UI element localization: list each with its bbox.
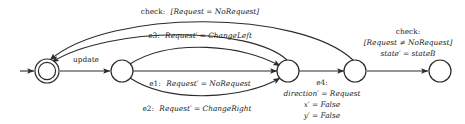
label-check-top-guard: [Request = NoRequest] bbox=[171, 7, 260, 16]
label-check-right-line1: check: bbox=[396, 27, 420, 36]
node-state-2[interactable] bbox=[111, 60, 133, 82]
label-check-right-line3: state′ = stateB bbox=[380, 49, 436, 58]
label-e1: e1: Request′ = NoRequest bbox=[149, 79, 251, 88]
label-e4-line3: x′ = False bbox=[304, 100, 341, 109]
state-diagram-canvas: update check: [Request = NoRequest] e3: … bbox=[0, 0, 465, 124]
label-e2-action: Request′ = ChangeRight bbox=[158, 104, 251, 113]
label-check-top: check: [Request = NoRequest] bbox=[141, 7, 260, 16]
label-e2: e2: Request′ = ChangeRight bbox=[142, 104, 251, 113]
label-e4-line1: e4: bbox=[316, 78, 328, 87]
label-update: update bbox=[73, 55, 99, 64]
label-e3-prefix: e3: bbox=[148, 31, 160, 40]
edge-e3-upper-arc bbox=[130, 47, 280, 66]
node-state-3[interactable] bbox=[277, 60, 299, 82]
node-initial-inner[interactable] bbox=[38, 62, 55, 79]
label-e4-line4: y′ = False bbox=[303, 111, 341, 120]
node-state-4[interactable] bbox=[344, 60, 366, 82]
node-state-5[interactable] bbox=[429, 60, 451, 82]
label-e4-line2: direction′ = Request bbox=[284, 89, 361, 98]
label-e2-prefix: e2: bbox=[142, 104, 154, 113]
label-check-top-prefix: check: bbox=[141, 7, 165, 16]
label-e3-action: Request′ = ChangeLeft bbox=[164, 31, 252, 40]
state-diagram-container: update check: [Request = NoRequest] e3: … bbox=[0, 0, 465, 124]
label-e1-prefix: e1: bbox=[149, 79, 161, 88]
label-check-right-line2: [Request ≠ NoRequest] bbox=[364, 38, 453, 47]
label-e1-action: Request′ = NoRequest bbox=[165, 79, 251, 88]
